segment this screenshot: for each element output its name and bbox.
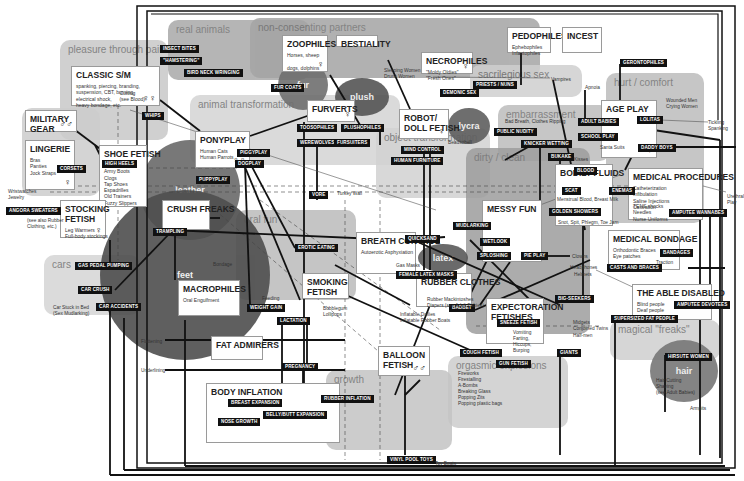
fetish-tag: QUICKSAND	[405, 235, 440, 243]
annotation-note: Feeding	[262, 296, 279, 302]
box-title: CLASSIC S/M	[76, 71, 131, 81]
annotation-note: Santa Suits	[600, 145, 625, 151]
box-title: THE ABLE DISABLED	[637, 289, 725, 299]
fetish-tag: GAS PEDAL PUMPING	[75, 262, 132, 270]
gender-symbol-icon: ♀	[95, 226, 102, 235]
box-subtext: "Moldy Oldies" "Fresh Ones"	[426, 69, 458, 82]
gender-symbol-icon: ♀	[64, 178, 71, 187]
box-title: SMOKING FETISH	[307, 278, 348, 298]
annotation-note: Toy Boats	[435, 461, 456, 467]
box-zoophiles: ZOOPHILESHorses, sheep dogs, dolphins♀	[282, 35, 328, 72]
fetish-tag: CASTS AND BRACES	[607, 264, 662, 272]
fetish-tag: SCHOOL PLAY	[578, 133, 618, 141]
box-note: Cutting (see Blood)	[119, 90, 145, 103]
fetish-tag: BLOOD	[574, 167, 597, 175]
box-subtext: Orthodontic Braces Eye patches	[613, 247, 656, 260]
fetish-tag: MUDLARKING	[453, 222, 491, 230]
fetish-tag: FEMALE LATEX MASKS	[396, 271, 457, 279]
fetish-tag: COUGH FETISH	[460, 349, 502, 357]
fetish-tag: ADULT BABIES	[578, 118, 619, 126]
fetish-tag: PIGGYPLAY	[237, 149, 270, 157]
annotation-note: Armpits	[690, 406, 706, 412]
box-title: ZOOPHILES	[287, 40, 336, 50]
box-subtext: Oral Engulfment	[183, 297, 219, 303]
fetish-tag: GERONTOPHILES	[620, 59, 667, 67]
box-subtext: Doc Martens Army Boots Clogs Tap Shoes E…	[104, 162, 137, 206]
gender-symbol-icon: ♀	[438, 127, 445, 136]
box-classic-sm: CLASSIC S/Mspanking, piercing, branding,…	[71, 66, 160, 106]
box-subtext: Horses, sheep dogs, dolphins	[287, 52, 319, 71]
fetish-tag: RUBBER INFLATION	[321, 395, 374, 403]
annotation-note: Bondage	[213, 262, 232, 268]
fetish-tag: KNICKER WETTING	[521, 140, 572, 148]
annotation-note: Urethral Play	[727, 194, 744, 206]
fetish-tag: BUKAKE	[548, 153, 574, 161]
gender-symbol-icon: ♂♂	[413, 364, 427, 373]
annotation-note: Kisses	[574, 157, 588, 163]
fetish-tag: WHIPS	[142, 112, 164, 120]
annotation-note: Rubber Mackintoshes Diapers (see Adult B…	[427, 297, 484, 309]
annotation-note: Apnoia	[585, 85, 600, 91]
annotation-note: Half-men	[573, 333, 592, 339]
fetish-tag: LOLITAS	[637, 116, 663, 124]
annotation-note: Headphones	[570, 265, 597, 271]
fetish-tag: INSECT BITES	[160, 45, 199, 53]
box-title: BESTIALITY	[341, 40, 391, 50]
fetish-tag: CAR CRUSH	[78, 286, 112, 294]
fetish-tag: CAR ACCIDENTS	[96, 303, 141, 311]
box-title: MEDICAL PROCEDURES	[633, 173, 734, 183]
fetish-map-diagram: real animalsnon-consenting partnerspleas…	[0, 0, 744, 481]
fetish-tag: BIRD NECK WRINGING	[184, 69, 243, 77]
fetish-tag: HIGH HEELS	[102, 160, 137, 168]
box-furverts: FURVERTS♀	[307, 100, 355, 122]
fetish-tag: PIE PLAY	[521, 252, 548, 260]
box-fat-admirers: FAT ADMIRERS	[211, 336, 263, 360]
box-military-gear: MILITARY GEAR♂♂	[25, 110, 77, 132]
fetish-tag: BANDAGES	[660, 249, 693, 257]
box-crush-freaks: CRUSH FREAKS	[162, 200, 210, 230]
annotation-note: Tickling Spanking	[708, 120, 728, 132]
fetish-tag: EROTIC EATING	[295, 244, 338, 252]
fetish-tag: "HAMSTERING"	[160, 57, 202, 65]
annotation-note: Bad Breath, Clothes Ripping	[505, 119, 566, 125]
fetish-tag: VINYL POOL TOYS	[387, 456, 436, 464]
fetish-tag: ANGORA SWEATERS	[6, 207, 61, 215]
fetish-tag: WEREWOLVES	[297, 139, 337, 147]
box-shoe-fetish: SHOE FETISHDoc Martens Army Boots Clogs …	[99, 145, 147, 207]
fetish-tag: TOOSOPHILES	[297, 124, 337, 132]
annotation-note: Hair Cutting Shaving (see Adult Babies)	[656, 378, 695, 396]
fetish-tag: PUPPYPLAY	[196, 176, 230, 184]
box-title: BODY INFLATION	[211, 388, 282, 398]
fetish-tag: FURSUITERS	[334, 139, 370, 147]
fetish-tag: HUMAN FURNITURE	[391, 157, 443, 165]
box-title: PEDOPHILES	[512, 32, 567, 42]
annotation-note: Vampires	[551, 77, 571, 83]
box-macrophiles: MACROPHILESOral Engulfment	[178, 280, 240, 316]
box-subtext: Autoerotic Asphyxiation	[361, 249, 413, 255]
fetish-tag: PREGNANCY	[282, 363, 318, 371]
annotation-note: Inflatable Dollies Inflatable Rubber Boa…	[400, 312, 450, 324]
gender-symbol-icon: ♀	[462, 62, 469, 71]
fetish-tag: GUN FETISH	[496, 360, 531, 368]
gender-symbol-icon: ♀	[317, 60, 324, 69]
gender-symbol-icon: ♂♂	[60, 120, 74, 129]
annotation-note: Traction	[656, 260, 673, 266]
fetish-tag: PUBLIC NUDITY	[494, 128, 537, 136]
fetish-tag: CORSETS	[57, 165, 86, 173]
annotation-note: Beadsobell	[448, 140, 472, 146]
box-title: AGE PLAY	[606, 105, 649, 115]
fetish-tag: DOGPLAY	[235, 160, 264, 168]
box-title: SHOE FETISH	[104, 150, 161, 160]
gender-symbol-icon: ♀♀	[143, 94, 157, 103]
fetish-tag: SCAT	[562, 187, 581, 195]
fetish-tag: ENEMAS	[609, 187, 635, 195]
box-balloon-fetish: BALLOON FETISH♂♂	[378, 346, 430, 376]
fetish-tag: AMPUTEE DEVOTEES	[674, 301, 730, 309]
box-title: CRUSH FREAKS	[167, 205, 235, 215]
fetish-tag: BELLY/BUTT EXPANSION	[263, 411, 327, 419]
box-title: PONYPLAY	[200, 136, 246, 146]
fetish-tag: BIG-SEEKERS	[555, 295, 594, 303]
fetish-tag: GIANTS	[557, 349, 581, 357]
box-title: NECROPHILES	[426, 57, 487, 67]
annotation-note: Midgets Conjoined Twins	[573, 320, 608, 332]
